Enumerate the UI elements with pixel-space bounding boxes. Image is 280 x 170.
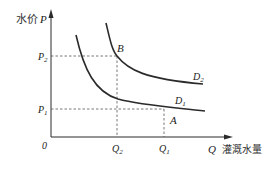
point-a-label: A xyxy=(169,114,177,126)
x-axis-symbol: Q xyxy=(208,143,216,155)
q2-label: Q2 xyxy=(112,143,123,156)
x-axis-label-cn: 灌溉水量 xyxy=(222,143,262,155)
demand-curve-diagram: 水价 P P2 P1 0 Q2 Q1 Q 灌溉水量 B A D1 D2 xyxy=(0,0,280,170)
origin-label: 0 xyxy=(42,140,47,151)
y-axis-label-cn: 水价 xyxy=(16,13,38,26)
x-axis-arrow-icon xyxy=(224,135,233,140)
curve-d1-label: D1 xyxy=(174,95,186,108)
p1-label: P1 xyxy=(37,104,48,117)
curve-d2-label: D2 xyxy=(192,71,204,84)
p2-label: P2 xyxy=(37,51,48,64)
point-b-label: B xyxy=(117,42,124,54)
y-axis-arrow-icon xyxy=(49,9,54,18)
q1-label: Q1 xyxy=(159,143,170,156)
y-axis-symbol: P xyxy=(39,13,47,25)
